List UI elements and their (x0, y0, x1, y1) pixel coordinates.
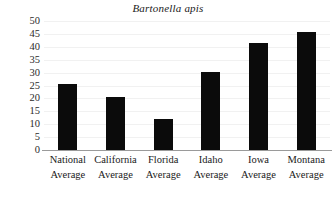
category-label-line-1: California (94, 154, 137, 165)
bar-slot (92, 21, 140, 150)
y-axis-tick-label: 40 (16, 42, 40, 52)
bar[interactable] (106, 97, 125, 150)
x-axis-category-label: MontanaAverage (277, 153, 335, 182)
y-axis-tick-label: 5 (16, 132, 40, 142)
bar-wrap (187, 21, 235, 150)
bar[interactable] (201, 72, 220, 150)
bar-slot (235, 21, 283, 150)
y-axis-tick-label: 50 (16, 16, 40, 26)
bar[interactable] (154, 119, 173, 150)
bar-wrap (44, 21, 92, 150)
bar-wrap (282, 21, 330, 150)
y-axis-tick-label: 10 (16, 119, 40, 129)
category-label-line-1: Florida (148, 154, 178, 165)
bar-chart: Bartonella apis 05101520253035404550 Nat… (0, 0, 336, 197)
y-axis-tick-label: 0 (16, 145, 40, 155)
y-axis-tick-labels: 05101520253035404550 (10, 0, 40, 197)
plot-area (44, 21, 330, 150)
category-label-line-1: Montana (287, 154, 324, 165)
y-axis-tick-label: 30 (16, 68, 40, 78)
bar-wrap (92, 21, 140, 150)
bar[interactable] (297, 32, 316, 150)
x-axis-line (42, 150, 332, 151)
x-axis-category-labels: NationalAverageCaliforniaAverageFloridaA… (44, 153, 330, 195)
category-label-line-2: Average (277, 168, 335, 183)
y-axis-tick-label: 25 (16, 81, 40, 91)
y-axis-tick-label: 15 (16, 106, 40, 116)
bar-slot (44, 21, 92, 150)
bar-slot (187, 21, 235, 150)
category-label-line-1: Idaho (199, 154, 223, 165)
y-axis-tick-label: 45 (16, 29, 40, 39)
bar-slot (139, 21, 187, 150)
chart-title: Bartonella apis (0, 2, 336, 14)
bar-wrap (139, 21, 187, 150)
category-label-line-1: National (50, 154, 86, 165)
bar-wrap (235, 21, 283, 150)
category-label-line-1: Iowa (248, 154, 269, 165)
bar[interactable] (249, 43, 268, 150)
y-axis-tick-label: 35 (16, 55, 40, 65)
y-axis-tick-label: 20 (16, 93, 40, 103)
bar-slot (282, 21, 330, 150)
bar[interactable] (58, 84, 77, 150)
